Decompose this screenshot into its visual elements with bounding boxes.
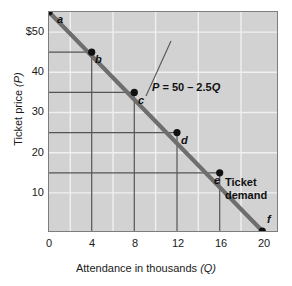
x-tick-label-16: 16 <box>206 238 236 249</box>
demand-callout-line1: Ticket <box>225 176 267 189</box>
x-axis-title-text: Attendance in thousands <box>76 262 197 274</box>
equation-var-q: Q <box>212 81 221 93</box>
point-label-b: b <box>95 54 102 65</box>
y-axis-title-variable: (P) <box>12 72 24 87</box>
x-axis-title: Attendance in thousands (Q) <box>0 262 292 274</box>
y-axis-title-text: Ticket price <box>12 90 24 146</box>
x-tick-label-12: 12 <box>163 238 193 249</box>
point-label-c: c <box>138 95 144 106</box>
x-tick-label-8: 8 <box>120 238 150 249</box>
data-point-c <box>131 89 138 96</box>
demand-callout-line2: demand <box>225 189 267 202</box>
point-label-f: f <box>267 214 271 225</box>
x-tick-label-20: 20 <box>249 238 279 249</box>
y-tick-label-10: 10 <box>0 187 44 198</box>
y-axis-title: Ticket price (P) <box>12 34 24 184</box>
data-point-d <box>173 129 180 136</box>
demand-curve-chart: $50 40 30 20 10 0 4 8 12 16 20 Attendanc… <box>0 0 292 286</box>
equation-body: = 50 – 2.5 <box>159 81 211 93</box>
equation-annotation: P = 50 – 2.5Q <box>152 81 220 93</box>
point-label-a: a <box>57 14 63 25</box>
point-label-d: d <box>181 135 188 146</box>
point-label-e: e <box>214 175 220 186</box>
x-axis-title-variable: (Q) <box>200 262 216 274</box>
x-tick-label-0: 0 <box>34 238 64 249</box>
x-tick-label-4: 4 <box>77 238 107 249</box>
demand-callout: Ticket demand <box>225 176 267 202</box>
